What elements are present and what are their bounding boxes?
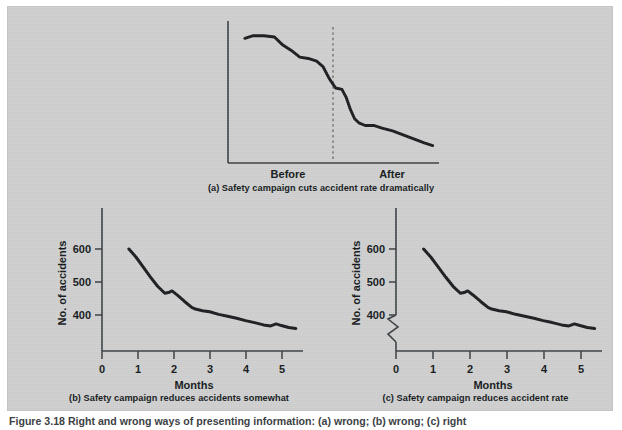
chart-c-xtick-0: 0 bbox=[393, 363, 399, 375]
chart-c-xtick-1: 1 bbox=[430, 363, 436, 375]
chart-b-xtick-4: 4 bbox=[243, 363, 250, 375]
chart-c-x-ticks bbox=[396, 351, 581, 359]
chart-c-ytick-500: 500 bbox=[367, 276, 385, 288]
chart-b-xtick-2: 2 bbox=[171, 363, 177, 375]
chart-b-xtick-1: 1 bbox=[135, 363, 141, 375]
chart-c-ytick-400: 400 bbox=[367, 309, 385, 321]
chart-c-caption: (c) Safety campaign reduces accident rat… bbox=[338, 393, 613, 403]
chart-b-ytick-400: 400 bbox=[73, 309, 91, 321]
chart-a-container: Before After (a) Safety campaign cuts ac… bbox=[196, 15, 446, 195]
chart-b-xlabel: Months bbox=[174, 379, 213, 391]
figure-root: Before After (a) Safety campaign cuts ac… bbox=[0, 0, 622, 430]
chart-b-caption: (b) Safety campaign reduces accidents so… bbox=[44, 393, 314, 403]
chart-b-xtick-5: 5 bbox=[279, 363, 285, 375]
chart-b-ytick-500: 500 bbox=[73, 276, 91, 288]
chart-b-container: 600 500 400 0 1 2 3 4 5 Months bbox=[44, 203, 314, 408]
chart-a-caption: (a) Safety campaign cuts accident rate d… bbox=[196, 183, 446, 193]
chart-a-xtick-after: After bbox=[379, 168, 405, 180]
chart-c-xlabel: Months bbox=[473, 379, 512, 391]
chart-b-y-ticks bbox=[95, 249, 102, 315]
axis-break-zigzag-icon bbox=[388, 315, 398, 342]
chart-a-xtick-before: Before bbox=[271, 168, 306, 180]
chart-b-xtick-0: 0 bbox=[99, 363, 105, 375]
chart-a-svg: Before After bbox=[196, 15, 446, 195]
chart-c-xtick-3: 3 bbox=[504, 363, 510, 375]
chart-c-xtick-5: 5 bbox=[578, 363, 584, 375]
chart-c-ytick-600: 600 bbox=[367, 243, 385, 255]
chart-c-ylabel: No. of accidents bbox=[350, 241, 362, 326]
chart-c-xtick-2: 2 bbox=[467, 363, 473, 375]
chart-c-svg: 600 500 400 0 1 2 3 4 5 Months No. bbox=[338, 203, 613, 408]
chart-c-xtick-4: 4 bbox=[541, 363, 548, 375]
chart-b-ylabel: No. of accidents bbox=[56, 241, 68, 326]
chart-c-container: 600 500 400 0 1 2 3 4 5 Months No. bbox=[338, 203, 613, 408]
chart-c-data-line bbox=[424, 249, 595, 329]
figure-panel: Before After (a) Safety campaign cuts ac… bbox=[8, 7, 612, 410]
chart-b-svg: 600 500 400 0 1 2 3 4 5 Months bbox=[44, 203, 314, 408]
chart-b-xtick-3: 3 bbox=[207, 363, 213, 375]
chart-b-data-line bbox=[129, 249, 296, 329]
chart-a-data-line bbox=[245, 36, 433, 146]
chart-c-y-ticks bbox=[389, 249, 396, 315]
figure-caption: Figure 3.18 Right and wrong ways of pres… bbox=[9, 415, 609, 430]
chart-b-ytick-600: 600 bbox=[73, 243, 91, 255]
chart-b-x-ticks bbox=[102, 351, 282, 359]
